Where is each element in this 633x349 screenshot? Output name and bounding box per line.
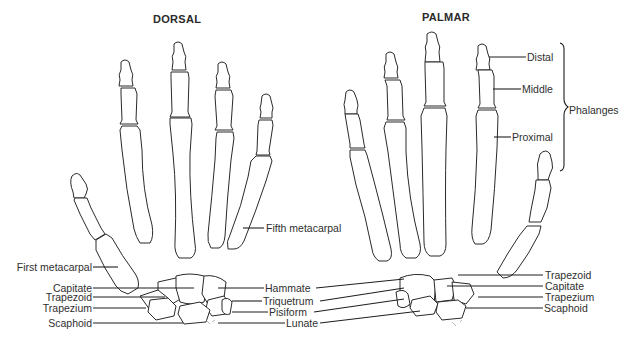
label-palmar-scaphoid: Scaphoid — [544, 302, 588, 314]
hand-bones-diagram: DORSAL PALMAR Fifth metacarpal First met… — [0, 0, 633, 349]
label-lunate: Lunate — [286, 317, 318, 329]
label-distal-phalanx: Distal — [527, 51, 553, 63]
label-hammate: Hammate — [265, 282, 311, 294]
label-dorsal-trapezium: Trapezium — [30, 302, 92, 314]
label-dorsal-scaphoid: Scaphoid — [30, 317, 92, 329]
dorsal-hand-drawing — [71, 42, 273, 324]
dorsal-view-title: DORSAL — [153, 13, 201, 25]
label-phalanges: Phalanges — [569, 104, 619, 116]
label-proximal-phalanx: Proximal — [512, 131, 553, 143]
label-first-metacarpal: First metacarpal — [14, 261, 92, 273]
label-fifth-metacarpal: Fifth metacarpal — [266, 222, 341, 234]
palmar-view-title: PALMAR — [422, 11, 470, 23]
label-middle-phalanx: Middle — [522, 83, 553, 95]
